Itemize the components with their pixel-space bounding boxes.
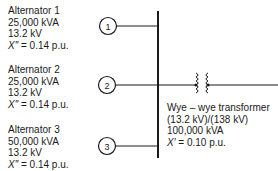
node-label-1: 1 <box>105 22 110 32</box>
alternator-1-voltage: 13.2 kV <box>8 28 69 40</box>
primary-coil-icon <box>196 73 198 93</box>
node-label-2: 2 <box>104 81 109 91</box>
generator-node-3: 3 <box>99 138 159 155</box>
reactance-value: = 0.14 p.u. <box>18 159 68 170</box>
alternator-3-name: Alternator 3 <box>8 124 69 136</box>
reactance-value: = 0.14 p.u. <box>18 99 68 110</box>
reactance-value: = 0.14 p.u. <box>18 40 68 51</box>
reactance-value: = 0.10 p.u. <box>176 137 226 148</box>
node-label-3: 3 <box>104 142 109 152</box>
transformer-symbol <box>158 73 278 93</box>
alternator-2-specs: Alternator 2 25,000 kVA 13.2 kV X″ = 0.1… <box>8 64 69 110</box>
reactance-symbol: X″ <box>8 99 18 110</box>
generator-node-2: 2 <box>99 77 159 94</box>
alternator-3-reactance: X″ = 0.14 p.u. <box>8 159 69 171</box>
transformer-title: Wye – wye transformer <box>167 102 270 114</box>
alternator-2-voltage: 13.2 kV <box>8 87 69 99</box>
reactance-symbol: X″ <box>8 159 18 170</box>
alternator-2-name: Alternator 2 <box>8 64 69 76</box>
transformer-ratio: (13.2 kV)/(138 kV) <box>167 114 270 126</box>
transformer-specs: Wye – wye transformer (13.2 kV)/(138 kV)… <box>167 102 270 148</box>
generator-node-1: 1 <box>100 18 159 35</box>
transformer-rating: 100,000 kVA <box>167 125 270 137</box>
alternator-3-voltage: 13.2 kV <box>8 147 69 159</box>
alternator-1-reactance: X″ = 0.14 p.u. <box>8 40 69 52</box>
reactance-symbol: X″ <box>8 40 18 51</box>
alternator-2-rating: 25,000 kVA <box>8 76 69 88</box>
transformer-reactance: X′ = 0.10 p.u. <box>167 137 270 149</box>
alternator-2-reactance: X″ = 0.14 p.u. <box>8 99 69 111</box>
alternator-1-rating: 25,000 kVA <box>8 17 69 29</box>
alternator-1-name: Alternator 1 <box>8 5 69 17</box>
alternator-3-rating: 50,000 kVA <box>8 136 69 148</box>
alternator-3-specs: Alternator 3 50,000 kVA 13.2 kV X″ = 0.1… <box>8 124 69 170</box>
secondary-coil-icon <box>206 73 208 93</box>
reactance-symbol: X′ <box>167 137 176 148</box>
alternator-1-specs: Alternator 1 25,000 kVA 13.2 kV X″ = 0.1… <box>8 5 69 51</box>
